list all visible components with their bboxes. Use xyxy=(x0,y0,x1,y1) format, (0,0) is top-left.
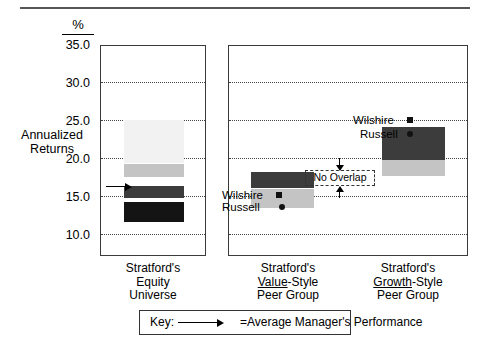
caption-growth-line3: Peer Group xyxy=(348,289,468,303)
y-axis-title-line1: Annualized xyxy=(8,128,96,142)
legend-arrow-head xyxy=(217,319,224,327)
axis-tick-15: 15.0 xyxy=(44,191,90,203)
no-overlap-label: No Overlap xyxy=(305,172,375,183)
gridline-10 xyxy=(101,234,205,235)
caption-value-rest: -Style xyxy=(288,275,319,289)
axis-unit-label: % xyxy=(58,18,98,32)
panel-style-peer-groups: Wilshire Russell Wilshire Russell No Ove… xyxy=(228,45,468,256)
growth-russell-label: Russell xyxy=(360,128,398,140)
gridline-30 xyxy=(101,82,205,83)
caption-growth-line1: Stratford's xyxy=(348,262,468,276)
axis-unit-underline xyxy=(62,34,94,35)
average-manager-arrow-head xyxy=(125,183,132,191)
caption-growth-style: Stratford's Growth-Style Peer Group xyxy=(348,262,468,303)
axis-tick-30: 30.0 xyxy=(44,77,90,89)
header-divider xyxy=(20,7,470,9)
panel-equity-universe xyxy=(100,45,206,256)
caption-equity-line3: Universe xyxy=(100,289,206,303)
band-equity-dark-gray xyxy=(124,186,184,198)
value-russell-label: Russell xyxy=(222,201,260,213)
legend-arrow-line xyxy=(178,322,218,323)
caption-value-line2: Value-Style xyxy=(228,276,348,290)
y-axis-title-line2: Returns xyxy=(8,142,96,156)
caption-growth-rest: -Style xyxy=(412,275,443,289)
band-equity-light-gray xyxy=(124,164,184,177)
no-overlap-down-arrow-head xyxy=(336,165,344,171)
caption-value-style: Stratford's Value-Style Peer Group xyxy=(228,262,348,303)
no-overlap-up-arrow-head xyxy=(336,186,344,192)
growth-wilshire-label: Wilshire xyxy=(353,114,394,126)
gridline-30-right xyxy=(229,82,467,83)
gridline-10-right xyxy=(229,234,467,235)
value-wilshire-marker xyxy=(276,192,282,198)
average-manager-arrow-line xyxy=(106,186,126,187)
band-growth-light-gray xyxy=(382,160,445,176)
value-russell-marker xyxy=(279,204,285,210)
gridline-25-right xyxy=(229,120,467,121)
axis-tick-10: 10.0 xyxy=(44,229,90,241)
y-axis-title: Annualized Returns xyxy=(8,128,96,156)
caption-value-line3: Peer Group xyxy=(228,289,348,303)
growth-russell-marker xyxy=(407,131,413,137)
legend-key-label: Key: xyxy=(150,316,174,329)
caption-value-line1: Stratford's xyxy=(228,262,348,276)
value-wilshire-label: Wilshire xyxy=(222,189,263,201)
axis-tick-35: 35.0 xyxy=(44,39,90,51)
band-equity-very-light xyxy=(124,120,184,163)
caption-value-underlined: Value xyxy=(258,275,288,289)
axis-tick-25: 25.0 xyxy=(44,115,90,127)
caption-equity-line2: Equity xyxy=(100,276,206,290)
legend-description: =Average Manager's Performance xyxy=(240,316,423,329)
caption-equity-universe: Stratford's Equity Universe xyxy=(100,262,206,303)
caption-equity-line1: Stratford's xyxy=(100,262,206,276)
caption-growth-line2: Growth-Style xyxy=(348,276,468,290)
band-equity-black xyxy=(124,202,184,222)
caption-growth-underlined: Growth xyxy=(373,275,412,289)
growth-wilshire-marker xyxy=(407,117,413,123)
